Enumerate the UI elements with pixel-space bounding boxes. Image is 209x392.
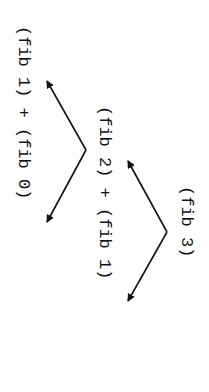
arrow-fib2-to-fib0 [47,150,86,222]
arrow-fib3-to-fib1 [128,232,167,301]
arrow-fib2-to-fib1 [47,81,86,150]
arrow-fib3-to-fib2 [128,161,167,232]
arrows-layer [0,0,209,392]
